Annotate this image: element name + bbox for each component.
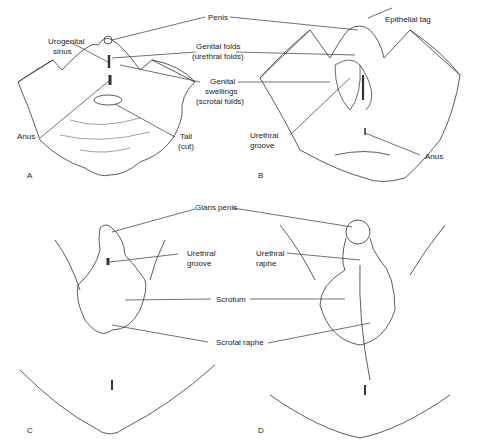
label-urogenital-sinus-1: Urogenital: [48, 37, 84, 46]
panel-letter-b: B: [258, 171, 263, 180]
label-genital-swellings-1: Genital: [210, 77, 235, 86]
label-scrotum: Scrotum: [216, 295, 246, 304]
panel-c-drawing: [20, 225, 215, 434]
label-tail-1: Tail: [180, 132, 192, 141]
panel-letter-a: A: [27, 171, 32, 180]
label-anus-a: Anus: [17, 132, 35, 141]
label-genital-swellings-3: (scrotal folds): [196, 97, 244, 106]
panel-d-drawing: [270, 220, 450, 438]
label-genital-swellings-2: swellings: [205, 87, 237, 96]
embryology-figure: Penis Urogenital sinus Genital folds (ur…: [0, 0, 477, 447]
label-glans-penis: Glans penis: [195, 203, 237, 212]
label-genital-folds-2: (urethral folds): [192, 52, 244, 61]
label-urethral-groove-c-1: Urethral: [187, 249, 215, 258]
figure-drawing: [0, 0, 477, 447]
label-urethral-raphe-1: Urethral: [256, 249, 284, 258]
label-urethral-groove-c-2: groove: [187, 259, 211, 268]
label-genital-folds-1: Genital folds: [196, 42, 240, 51]
label-scrotal-raphe: Scrotal raphe: [216, 338, 264, 347]
label-urethral-groove-b-1: Urethral: [250, 131, 278, 140]
label-urogenital-sinus-2: sinus: [53, 47, 72, 56]
label-anus-b: Anus: [425, 152, 443, 161]
panel-a-drawing: [18, 36, 195, 176]
panel-letter-d: D: [258, 426, 264, 435]
label-epithelial-tag: Epithelial tag: [385, 15, 431, 24]
label-urethral-groove-b-2: groove: [250, 141, 274, 150]
label-tail-2: (cut): [178, 142, 194, 151]
panel-letter-c: C: [27, 426, 33, 435]
label-urethral-raphe-2: raphe: [256, 259, 276, 268]
label-penis: Penis: [208, 13, 228, 22]
